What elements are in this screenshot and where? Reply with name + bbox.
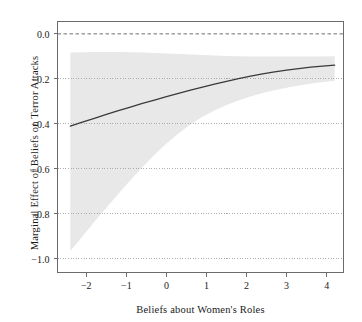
x-tick-label: 3 (284, 280, 289, 291)
x-axis-label: Beliefs about Women's Roles (57, 299, 344, 317)
plot-canvas (0, 0, 362, 322)
x-tick-label: 0 (164, 280, 169, 291)
x-tick-label: 1 (204, 280, 209, 291)
x-tick-label: −2 (81, 280, 92, 291)
y-axis-label: Marginal Effect of Beliefs on Terror Att… (24, 28, 42, 278)
x-tick-label: 2 (244, 280, 249, 291)
y-axis-label-text: Marginal Effect of Beliefs on Terror Att… (29, 56, 40, 251)
x-tick-label: 4 (324, 280, 329, 291)
x-axis-label-text: Beliefs about Women's Roles (136, 304, 264, 315)
chart-figure: 0.0−0.2−0.4−0.6−0.8−1.0 −2−101234 Margin… (0, 0, 362, 322)
confidence-band (70, 52, 334, 251)
x-tick-label: −1 (121, 280, 132, 291)
